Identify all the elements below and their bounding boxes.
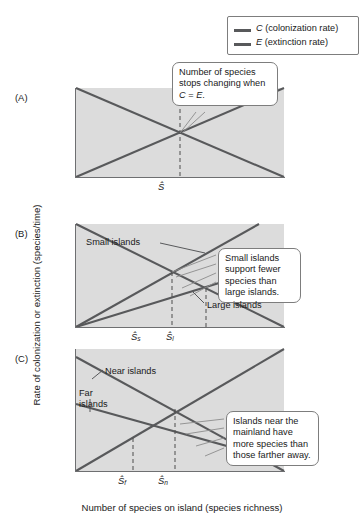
panel-c-annotation-far-islands: Farislands — [79, 388, 113, 409]
panel-c-callout: Islands near the mainland have more spec… — [226, 411, 319, 466]
y-axis-title: Rate of colonization or extinction (spec… — [31, 206, 42, 406]
x-axis-title: Number of species on island (species ric… — [0, 502, 364, 513]
island-biogeography-figure: C (colonization rate) E (extinction rate… — [0, 0, 364, 530]
panel-c-tick-s-far: Ŝf — [118, 475, 126, 486]
panel-c-tick-s-near: Ŝn — [158, 475, 168, 486]
panel-c-tick-sub-near: n — [164, 479, 168, 486]
panel-c-tick-sub-far: f — [124, 479, 126, 486]
panel-c-annotation-near-islands: Near islands — [105, 366, 156, 377]
